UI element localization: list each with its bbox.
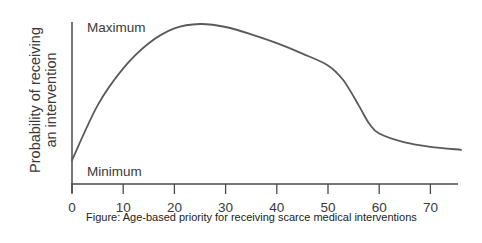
priority-curve (72, 24, 461, 160)
chart: Probability of receiving an intervention… (0, 0, 482, 243)
x-axis-ticks (72, 184, 430, 194)
minimum-label: Minimum (87, 164, 142, 179)
figure-caption: Figure: Age-based priority for receiving… (86, 211, 417, 223)
y-axis-title: Probability of receiving an intervention (27, 27, 59, 173)
x-tick-label: 70 (423, 200, 438, 215)
y-axis-title-line1: Probability of receiving (27, 27, 43, 173)
maximum-label: Maximum (87, 20, 146, 35)
x-tick-label: 0 (68, 200, 76, 215)
y-axis-title-line2: an intervention (43, 52, 59, 147)
